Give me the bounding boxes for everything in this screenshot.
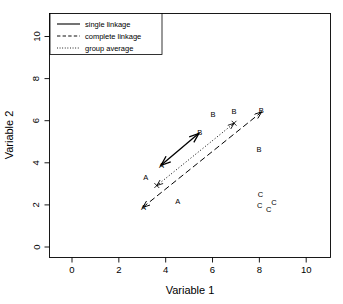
- complete-linkage-arrow: [143, 112, 262, 208]
- data-point-B: B: [232, 107, 237, 116]
- data-point-A: A: [143, 173, 148, 182]
- group-average-arrow: [154, 121, 236, 188]
- x-tick-label-10: 10: [301, 264, 312, 275]
- x-axis-title: Variable 1: [166, 284, 215, 296]
- y-tick-label-10: 10: [31, 31, 42, 42]
- y-axis-title: Variable 2: [3, 111, 15, 160]
- data-point-A: A: [175, 197, 180, 206]
- x-tick-label-0: 0: [69, 264, 74, 275]
- y-tick-label-0: 0: [31, 244, 42, 249]
- legend-label-dotted: group average: [85, 44, 133, 53]
- data-point-C: C: [271, 198, 277, 207]
- legend-label-solid: single linkage: [85, 20, 130, 29]
- y-tick-label-4: 4: [31, 160, 42, 165]
- data-point-B: B: [259, 106, 264, 115]
- scatter-plot-figure: 0246810 0246810 Variable 1 Variable 2 AA…: [0, 0, 343, 304]
- y-tick-label-6: 6: [31, 118, 42, 123]
- y-tick-label-2: 2: [31, 202, 42, 207]
- data-point-C: C: [258, 190, 264, 199]
- data-point-B: B: [197, 128, 202, 137]
- linkage-arrows: [143, 112, 262, 208]
- group-average-arrow-line: [157, 123, 234, 185]
- legend-label-dashed: complete linkage: [85, 32, 141, 41]
- x-tick-label-2: 2: [116, 264, 121, 275]
- x-axis-tick-labels: 0246810: [69, 264, 311, 275]
- x-tick-label-8: 8: [257, 264, 262, 275]
- data-point-B: B: [256, 145, 261, 154]
- data-point-B: B: [210, 110, 215, 119]
- x-axis-tick-marks: [72, 258, 306, 263]
- y-axis-tick-labels: 0246810: [31, 31, 42, 249]
- plot-canvas: 0246810 0246810 Variable 1 Variable 2 AA…: [0, 0, 343, 304]
- data-point-labels: AAAABBBBBCCCC: [141, 106, 277, 214]
- single-linkage-arrow-line: [161, 133, 199, 165]
- data-point-A: A: [141, 203, 146, 212]
- complete-linkage-arrow-line: [143, 112, 262, 208]
- group-average-arrow-cross-marker: [232, 121, 237, 126]
- legend: single linkagecomplete linkagegroup aver…: [50, 14, 162, 55]
- single-linkage-arrow: [161, 133, 199, 165]
- y-axis-tick-marks: [45, 37, 50, 248]
- data-point-C: C: [257, 201, 263, 210]
- x-tick-label-6: 6: [210, 264, 215, 275]
- x-tick-label-4: 4: [163, 264, 168, 275]
- group-average-arrow-cross-marker: [154, 183, 159, 188]
- y-tick-label-8: 8: [31, 76, 42, 81]
- data-point-A: A: [159, 161, 164, 170]
